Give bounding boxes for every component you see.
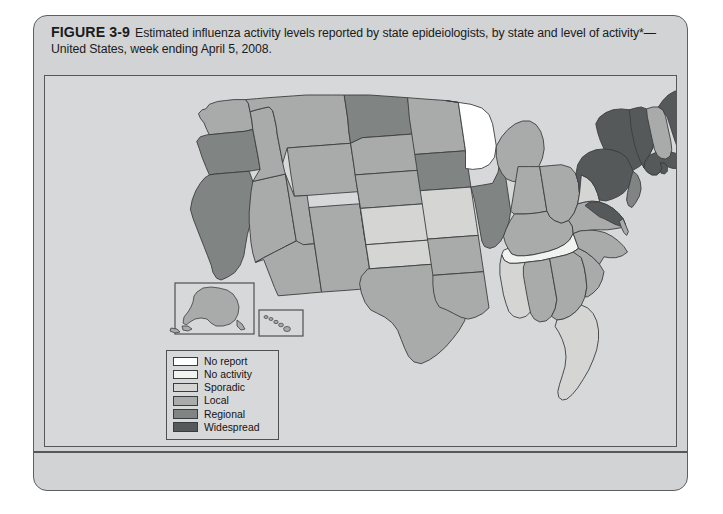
legend-swatch-regional (173, 409, 198, 419)
state-ar[interactable]: Arkansas (428, 235, 484, 275)
state-or[interactable]: Oregon (197, 129, 260, 175)
legend-swatch-sporadic (173, 383, 198, 393)
legend-label-regional: Regional (204, 409, 245, 420)
state-ak-aleutians-a[interactable] (182, 326, 192, 331)
state-ne[interactable]: Nebraska (355, 170, 424, 208)
state-ia[interactable]: Iowa (415, 151, 471, 191)
legend-label-no-report: No report (204, 356, 247, 367)
state-hi-island-5[interactable] (284, 326, 291, 331)
legend-swatch-widespread (173, 422, 198, 432)
state-mn[interactable]: Minnesota (408, 98, 466, 155)
state-ak-aleutians-b[interactable] (170, 328, 180, 333)
legend-item-no-activity[interactable]: No activity (173, 368, 273, 381)
state-ak-panhandle[interactable] (237, 320, 245, 330)
legend-label-no-activity: No activity (204, 369, 252, 380)
state-hi-island-3[interactable] (274, 320, 278, 323)
united-states-choropleth-map: WashingtonOregonCaliforniaNevadaIdahoMon… (45, 76, 676, 446)
legend-item-regional[interactable]: Regional (173, 408, 273, 421)
figure-caption: FIGURE 3-9Estimated influenza activity l… (34, 16, 687, 72)
state-ca[interactable]: California (190, 171, 256, 280)
map-legend: No reportNo activitySporadicLocalRegiona… (166, 350, 279, 440)
state-fl[interactable]: Florida (555, 305, 598, 400)
state-hi-island-1[interactable] (264, 316, 268, 319)
legend-item-widespread[interactable]: Widespread (173, 421, 273, 434)
figure-number: FIGURE 3-9 (51, 24, 130, 40)
state-sd[interactable]: South Dakota (351, 134, 419, 175)
legend-swatch-local (173, 396, 198, 406)
figure-container: FIGURE 3-9Estimated influenza activity l… (33, 15, 688, 491)
legend-item-local[interactable]: Local (173, 395, 273, 408)
state-hi-island-2[interactable] (269, 318, 273, 321)
state-wy[interactable]: Wyoming (287, 143, 358, 196)
state-ks[interactable]: Kansas (361, 204, 430, 245)
legend-item-no-report[interactable]: No report (173, 355, 273, 368)
legend-label-sporadic: Sporadic (204, 382, 245, 393)
legend-swatch-no-activity (173, 370, 198, 380)
legend-swatch-no-report (173, 357, 198, 367)
map-panel: WashingtonOregonCaliforniaNevadaIdahoMon… (44, 75, 677, 447)
figure-footer (34, 453, 687, 490)
state-wa[interactable]: Washington (199, 100, 253, 135)
state-hi-island-4[interactable] (279, 323, 284, 327)
figure-caption-text: Estimated influenza activity levels repo… (51, 26, 656, 56)
legend-label-widespread: Widespread (204, 422, 259, 433)
legend-item-sporadic[interactable]: Sporadic (173, 381, 273, 394)
legend-label-local: Local (204, 395, 229, 406)
state-mo[interactable]: Missouri (420, 187, 478, 239)
state-ak[interactable] (183, 287, 239, 326)
